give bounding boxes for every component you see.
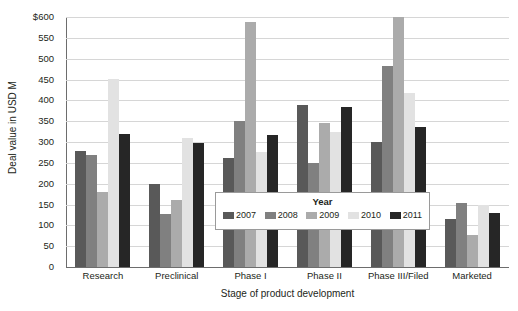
- y-axis-tick-label: 100: [38, 220, 54, 230]
- y-axis-tick-label: 300: [38, 137, 54, 147]
- bar: [160, 214, 171, 267]
- bar: [119, 134, 130, 267]
- bar: [382, 66, 393, 267]
- bar: [108, 79, 119, 267]
- y-axis-tick-label: 550: [38, 33, 54, 43]
- x-axis-tick-label: Preclinical: [155, 270, 198, 281]
- bar: [171, 200, 182, 267]
- bar-group: [435, 17, 509, 267]
- legend-label: 2009: [319, 211, 339, 220]
- y-axis-tick-label: 350: [38, 116, 54, 126]
- legend-label: 2011: [403, 211, 422, 220]
- x-axis-tick-labels: ResearchPreclinicalPhase IPhase IIPhase …: [66, 270, 509, 286]
- bar: [489, 213, 500, 267]
- bar-chart: $600550500450400350300250200150100500 De…: [0, 0, 518, 311]
- x-axis-tick-label: Phase I: [234, 270, 266, 281]
- bar: [86, 155, 97, 267]
- legend-item-list: 20072008200920102011: [220, 211, 425, 220]
- bar: [467, 235, 478, 268]
- legend-swatch-icon: [348, 212, 359, 219]
- bar: [456, 203, 467, 267]
- bar: [478, 205, 489, 267]
- y-axis-tick-label: 450: [38, 75, 54, 85]
- legend-title: Year: [220, 196, 425, 207]
- bar: [182, 138, 193, 267]
- legend-item[interactable]: 2010: [348, 211, 381, 220]
- legend-item[interactable]: 2009: [306, 211, 339, 220]
- bar-group: [140, 17, 214, 267]
- legend-swatch-icon: [265, 212, 276, 219]
- y-axis-tick-label: 250: [38, 158, 54, 168]
- y-axis-tick-label: 500: [38, 54, 54, 64]
- y-axis-title: Deal value in USD M: [7, 28, 18, 228]
- bar-group: [66, 17, 140, 267]
- x-axis-tick-label: Phase II: [307, 270, 342, 281]
- x-axis-line: [66, 267, 509, 268]
- legend-swatch-icon: [306, 212, 317, 219]
- y-axis-tick-label: 200: [38, 179, 54, 189]
- legend-item[interactable]: 2008: [265, 211, 298, 220]
- y-axis-tick-label: 400: [38, 95, 54, 105]
- legend-item[interactable]: 2011: [390, 211, 422, 220]
- legend-item[interactable]: 2007: [223, 211, 256, 220]
- y-axis-tick-label: 50: [43, 241, 54, 251]
- bar: [149, 184, 160, 267]
- bar: [445, 219, 456, 267]
- y-axis-tick-label: $600: [33, 12, 54, 22]
- bar: [97, 192, 108, 267]
- legend-label: 2007: [236, 211, 256, 220]
- bar: [245, 22, 256, 267]
- bar: [341, 107, 352, 267]
- legend-swatch-icon: [223, 212, 234, 219]
- x-axis-tick-label: Marketed: [452, 270, 492, 281]
- x-axis-title: Stage of product development: [66, 288, 509, 299]
- x-axis-tick-label: Research: [83, 270, 124, 281]
- legend: Year 20072008200920102011: [215, 192, 430, 230]
- y-axis-tick-label: 150: [38, 200, 54, 210]
- bar: [75, 151, 86, 267]
- legend-label: 2010: [361, 211, 381, 220]
- legend-label: 2008: [278, 211, 298, 220]
- bar: [297, 105, 308, 268]
- x-axis-tick-label: Phase III/Filed: [368, 270, 429, 281]
- y-axis-tick-label: 0: [49, 262, 54, 272]
- bar: [404, 93, 415, 267]
- legend-swatch-icon: [390, 212, 401, 219]
- bar: [193, 143, 204, 267]
